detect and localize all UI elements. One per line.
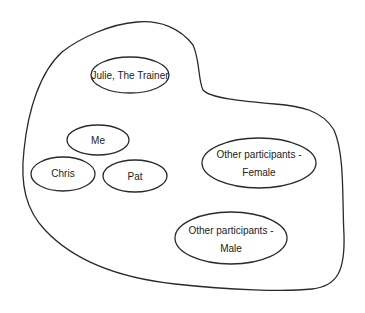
label-pat: Pat [127,171,142,182]
node-julie: Julie, The Trainer [91,57,169,93]
node-chris: Chris [31,157,95,191]
label-male-line2: Male [220,243,242,254]
label-chris: Chris [51,168,74,179]
label-female-line1: Other participants - [216,149,301,160]
node-male: Other participants - Male [175,212,287,264]
ellipse-female [202,138,316,188]
node-pat: Pat [103,160,167,192]
diagram-canvas: Julie, The Trainer Me Chris Pat Other pa… [0,0,365,313]
node-female: Other participants - Female [202,138,316,188]
label-male-line1: Other participants - [188,225,273,236]
label-female-line2: Female [242,167,276,178]
node-me: Me [67,125,129,155]
ellipse-male [175,212,287,264]
label-me: Me [91,135,105,146]
label-julie: Julie, The Trainer [91,70,169,81]
